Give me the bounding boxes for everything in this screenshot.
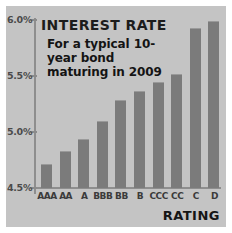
bar bbox=[190, 28, 201, 188]
chart-figure: INTEREST RATE For a typical 10-year bond… bbox=[6, 6, 226, 227]
bar bbox=[115, 100, 126, 188]
bar bbox=[134, 91, 145, 188]
bar bbox=[208, 21, 219, 188]
y-tick-label: 4.5% bbox=[7, 182, 32, 193]
chart-title: INTEREST RATE bbox=[41, 17, 167, 33]
y-axis-line bbox=[34, 18, 36, 194]
chart-subtitle: For a typical 10-year bond maturing in 2… bbox=[47, 37, 179, 79]
bar bbox=[171, 74, 182, 188]
bar bbox=[153, 82, 164, 188]
bar bbox=[60, 151, 71, 188]
y-tick-label: 6.0% bbox=[7, 14, 32, 25]
bar bbox=[78, 139, 89, 188]
y-tick-label: 5.0% bbox=[7, 126, 32, 137]
x-axis-title: RATING bbox=[163, 208, 220, 223]
x-tick-label: D bbox=[202, 191, 226, 201]
bar bbox=[97, 121, 108, 188]
bar bbox=[41, 164, 52, 188]
y-tick-label: 5.5% bbox=[7, 70, 32, 81]
